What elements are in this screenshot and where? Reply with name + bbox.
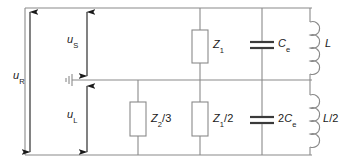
label-l-base: L — [325, 37, 331, 49]
label-2ce-sub: e — [292, 120, 296, 129]
label-z1h-base: Z — [213, 112, 220, 124]
label-u-R: uR — [13, 70, 25, 81]
label-capacitor-2ce: 2Ce — [278, 113, 297, 124]
ground-icon — [66, 74, 72, 86]
branch-z2-over-3 — [130, 80, 146, 155]
circuit-diagram: uR uS uL Z1 Ce L Z2/3 Z1/2 2Ce L/2 — [0, 0, 346, 167]
label-u-R-sub: R — [19, 77, 25, 86]
label-u-S-sub: S — [73, 41, 78, 50]
label-impedance-z2-over-3: Z2/3 — [151, 113, 171, 124]
impedance-z1-box — [192, 30, 208, 63]
label-z1-base: Z — [213, 38, 220, 50]
impedance-z2-over-3-box — [130, 102, 146, 136]
label-ce-base: C — [278, 37, 286, 49]
branch-l — [310, 8, 320, 80]
label-u-S: uS — [67, 34, 78, 45]
branch-ce — [250, 8, 274, 80]
label-inductor-l: L — [325, 38, 331, 49]
branch-l-over-2 — [310, 80, 320, 155]
label-impedance-z1-over-2: Z1/2 — [213, 113, 233, 124]
branch-2ce — [250, 80, 274, 155]
label-u-L: uL — [67, 109, 78, 120]
wire-group-rails — [25, 8, 312, 155]
label-u-L-sub: L — [73, 116, 77, 125]
branch-z1-over-2 — [192, 80, 208, 155]
label-z2-base: Z — [151, 112, 158, 124]
label-capacitor-ce: Ce — [278, 38, 290, 49]
label-z2-suffix: /3 — [162, 112, 171, 124]
circuit-schematic-canvas — [0, 0, 346, 167]
label-inductor-l-over-2: L/2 — [323, 113, 339, 124]
label-z1-sub: 1 — [220, 46, 224, 55]
label-lh-suffix: /2 — [329, 112, 338, 124]
label-z2-sub: 2 — [158, 120, 162, 129]
impedance-z1-over-2-box — [192, 102, 208, 136]
inductor-l-coil — [310, 21, 320, 74]
label-impedance-z1: Z1 — [213, 39, 224, 50]
branch-z1 — [192, 8, 208, 80]
label-z1h-suffix: /2 — [224, 112, 233, 124]
label-z1h-sub: 1 — [220, 120, 224, 129]
inductor-l-over-2-coil — [310, 95, 320, 148]
label-ce-sub: e — [286, 45, 290, 54]
